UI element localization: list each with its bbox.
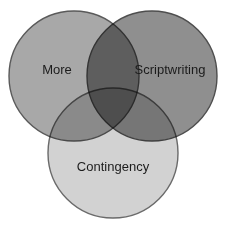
venn-label-more: More [42,62,72,77]
venn-label-contingency: Contingency [77,159,150,174]
venn-label-scriptwriting: Scriptwriting [135,62,206,77]
venn-diagram: More Scriptwriting Contingency [0,0,226,230]
venn-canvas: More Scriptwriting Contingency [0,0,226,230]
venn-circle-contingency[interactable] [48,88,178,218]
